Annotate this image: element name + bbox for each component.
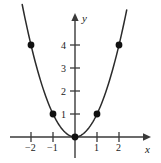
ytick-label-4: 4	[61, 41, 66, 51]
data-point	[28, 42, 35, 49]
xtick-label-neg2: −2	[25, 143, 36, 153]
x-axis-label: x	[145, 144, 150, 155]
data-point	[72, 134, 79, 141]
data-point	[94, 111, 101, 118]
coordinate-plane	[0, 0, 161, 163]
xtick-label-pos1: 1	[94, 143, 99, 153]
ytick-label-1: 1	[61, 110, 66, 120]
ytick-label-2: 2	[61, 87, 66, 97]
y-axis-label: y	[82, 13, 87, 24]
data-point	[116, 42, 123, 49]
ytick-label-3: 3	[61, 64, 66, 74]
xtick-label-pos2: 2	[116, 143, 121, 153]
xtick-label-neg1: −1	[47, 143, 58, 153]
parabola-graph-figure: −2 −1 1 2 1 2 3 4 y x	[0, 0, 161, 163]
data-point	[50, 111, 57, 118]
